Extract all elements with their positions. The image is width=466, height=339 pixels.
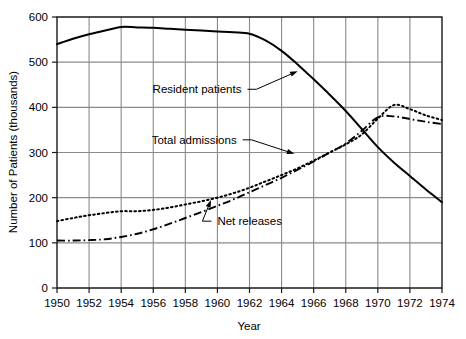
- x-tick-label: 1972: [397, 297, 423, 309]
- chart-container: 0100200300400500600 19501952195419561958…: [0, 0, 466, 339]
- x-tick-label: 1960: [205, 297, 231, 309]
- x-tick-label: 1956: [140, 297, 166, 309]
- y-tick-label: 0: [42, 282, 48, 294]
- y-tick-label: 600: [29, 11, 48, 23]
- y-tick-label: 200: [29, 192, 48, 204]
- x-tick-label: 1974: [429, 297, 455, 309]
- annotation-label: Total admissions: [152, 134, 237, 146]
- x-tick-label: 1958: [173, 297, 199, 309]
- x-tick-label: 1970: [365, 297, 391, 309]
- line-chart: 0100200300400500600 19501952195419561958…: [0, 0, 466, 339]
- y-tick-label: 500: [29, 56, 48, 68]
- y-axis-title: Number of Patients (thousands): [7, 71, 19, 234]
- x-axis-title: Year: [237, 320, 260, 332]
- x-tick-label: 1968: [333, 297, 359, 309]
- annotation-label: Resident patients: [153, 83, 242, 95]
- annotation-label: Net releases: [217, 215, 282, 227]
- x-tick-label: 1966: [301, 297, 327, 309]
- x-tick-label: 1962: [237, 297, 263, 309]
- x-tick-label: 1950: [44, 297, 70, 309]
- x-tick-label: 1964: [269, 297, 295, 309]
- y-tick-label: 400: [29, 101, 48, 113]
- y-tick-label: 300: [29, 147, 48, 159]
- x-tick-label: 1954: [108, 297, 134, 309]
- x-tick-label: 1952: [76, 297, 102, 309]
- y-tick-label: 100: [29, 237, 48, 249]
